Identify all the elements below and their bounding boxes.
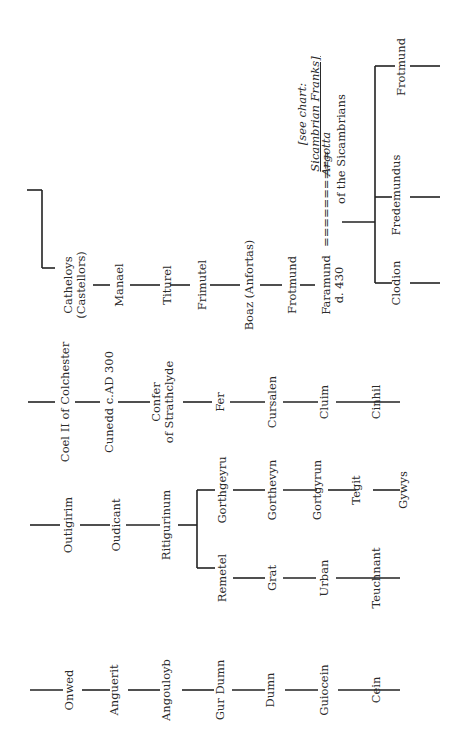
person-titurel: Titurel: [161, 250, 174, 320]
person-urban: Urban: [318, 538, 331, 618]
name-label: Coel II of Colchester: [58, 342, 72, 462]
person-cinhil: Cinhil: [370, 339, 383, 465]
name-label: Clodion: [389, 261, 403, 306]
person-gywys: Gywys: [397, 450, 410, 530]
person-gur-dumn: Gur Dumn: [214, 652, 227, 728]
name-label: Frotmund: [394, 38, 408, 96]
person-frotmund-child: Frotmund: [395, 29, 408, 105]
person-boaz: Boaz (Anfortas): [243, 235, 256, 335]
name-label: Onwed: [62, 670, 76, 711]
person-catheloys: Catheloys(Castellors): [62, 250, 88, 320]
name-sublabel: of the Sicambrians: [334, 94, 348, 204]
name-label: Tegit: [349, 475, 363, 504]
name-label: Cinhil: [369, 385, 383, 420]
person-grat: Grat: [266, 538, 279, 618]
person-clodion: Clodion: [390, 246, 403, 320]
chart-reference[interactable]: [see chart: Sicambrian Franks]: [296, 54, 322, 174]
name-sublabel: d. 430: [333, 250, 346, 320]
person-fredemundus: Fredemundus: [390, 150, 403, 240]
name-label: Fer: [213, 392, 227, 412]
name-label: Anguerit: [107, 664, 121, 715]
name-label: Gywys: [396, 471, 410, 509]
person-manael: Manael: [113, 250, 126, 320]
name-label: Teuchnant: [369, 547, 383, 608]
name-label: Angouloyb: [159, 659, 173, 721]
person-faramund: Faramundd. 430: [320, 250, 346, 320]
name-label: Titurel: [160, 265, 174, 304]
person-coel: Coel II of Colchester: [59, 339, 72, 465]
name-label: Frotmund: [285, 256, 299, 314]
name-sublabel: of Strathclyde: [163, 339, 176, 465]
person-cluim: Cluim: [318, 339, 331, 465]
marriage-connector: ==========: [320, 177, 333, 247]
person-teuchnant: Teuchnant: [370, 538, 383, 618]
name-label: Remetel: [215, 554, 229, 602]
name-label: Cunedd c.AD 300: [102, 351, 116, 453]
name-label: Fredemundus: [389, 155, 403, 236]
person-frotmund: Frotmund: [286, 250, 299, 320]
person-frimutel: Frimutel: [196, 250, 209, 320]
argotta-note: of the Sicambrians: [335, 94, 348, 204]
name-label: Frimutel: [195, 260, 209, 311]
person-cursalen: Cursalen: [266, 339, 279, 465]
name-label: Urban: [317, 560, 331, 597]
person-ritigurinum: Ritigurinum: [160, 485, 173, 565]
person-dumn: Dumn: [264, 652, 277, 728]
name-label: Cein: [369, 677, 383, 704]
name-label: Outigirim: [61, 497, 75, 553]
person-outigirim: Outigirim: [62, 485, 75, 565]
person-tegit: Tegit: [350, 450, 363, 530]
name-label: Boaz (Anfortas): [242, 240, 256, 331]
person-fer: Fer: [214, 339, 227, 465]
person-confer: Conferof Strathclyde: [150, 339, 176, 465]
genealogy-diagram: Onwed Anguerit Angouloyb Gur Dumn Dumn G…: [0, 0, 463, 754]
name-label: Manael: [112, 263, 126, 306]
person-cein: Cein: [370, 652, 383, 728]
name-label: Gorthgeyru: [215, 456, 229, 523]
name-label: Gur Dumn: [213, 660, 227, 721]
person-anguerit: Anguerit: [108, 652, 121, 728]
person-remetel: Remetel: [216, 538, 229, 618]
name-label: Oudicant: [109, 498, 123, 551]
sicambrian-franks-link[interactable]: Sicambrian Franks]: [309, 54, 322, 174]
person-cunedd: Cunedd c.AD 300: [103, 339, 116, 465]
person-angouloyb: Angouloyb: [160, 652, 173, 728]
person-onwed: Onwed: [63, 652, 76, 728]
person-oudicant: Oudicant: [110, 485, 123, 565]
person-guiocein: Guiocein: [318, 652, 331, 728]
name-label: Cluim: [317, 385, 331, 419]
name-label: Gortgyrun: [310, 460, 324, 520]
name-label: Grat: [265, 565, 279, 591]
name-sublabel: (Castellors): [75, 250, 88, 320]
name-label: Dumn: [263, 673, 277, 708]
name-label: Ritigurinum: [159, 490, 173, 560]
name-label: Cursalen: [265, 376, 279, 428]
name-label: Guiocein: [317, 664, 331, 716]
name-label: Gorthevyn: [265, 460, 279, 521]
